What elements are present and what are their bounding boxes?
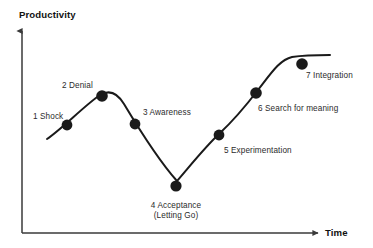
data-point-integration bbox=[296, 58, 308, 70]
change-curve-line bbox=[47, 55, 330, 181]
change-curve-diagram: Productivity Time 1 Shock 2 Denial 3 Awa… bbox=[0, 0, 373, 248]
label-acceptance-line2: (Letting Go) bbox=[133, 211, 219, 221]
label-experimentation: 5 Experimentation bbox=[224, 146, 292, 156]
data-point-search-for-meaning bbox=[250, 87, 262, 99]
label-integration: 7 Integration bbox=[306, 71, 353, 81]
data-point-awareness bbox=[130, 119, 141, 130]
label-search-for-meaning: 6 Search for meaning bbox=[258, 104, 338, 114]
data-point-experimentation bbox=[214, 130, 225, 141]
y-axis-title: Productivity bbox=[19, 9, 76, 20]
label-awareness: 3 Awareness bbox=[143, 108, 191, 118]
data-point-acceptance bbox=[170, 180, 181, 191]
label-acceptance: 4 Acceptance (Letting Go) bbox=[133, 201, 219, 221]
label-acceptance-line1: 4 Acceptance bbox=[133, 201, 219, 211]
label-denial: 2 Denial bbox=[62, 81, 93, 91]
x-axis-title: Time bbox=[325, 227, 348, 238]
data-point-denial bbox=[96, 90, 108, 102]
label-shock: 1 Shock bbox=[33, 112, 63, 122]
